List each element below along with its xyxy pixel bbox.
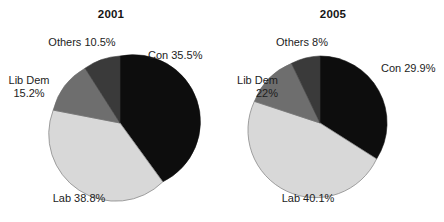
pie-label-lab-2005: Lab 40.1% bbox=[258, 192, 358, 205]
pie-label-libdem-2005: Lib Dem 22% bbox=[220, 74, 278, 100]
pie-slices-2001 bbox=[49, 55, 201, 202]
pie-chart-figure: 2001 Others 10.5% Con 35.5% Lib Dem 15.2… bbox=[0, 0, 444, 222]
chart-panel-2005: 2005 Others 8% Con 29.9% Lib Dem 22% Lab… bbox=[222, 0, 444, 222]
pie-2001 bbox=[0, 0, 222, 222]
pie-label-others-2005: Others 8% bbox=[258, 36, 346, 49]
chart-panel-2001: 2001 Others 10.5% Con 35.5% Lib Dem 15.2… bbox=[0, 0, 222, 222]
pie-label-con-2001: Con 35.5% bbox=[148, 49, 228, 62]
pie-label-con-2005: Con 29.9% bbox=[381, 62, 444, 75]
pie-label-others-2001: Others 10.5% bbox=[32, 36, 132, 49]
pie-label-libdem-2001: Lib Dem 15.2% bbox=[2, 74, 56, 100]
pie-label-lab-2001: Lab 38.8% bbox=[36, 192, 122, 205]
pie-2005 bbox=[222, 0, 444, 222]
